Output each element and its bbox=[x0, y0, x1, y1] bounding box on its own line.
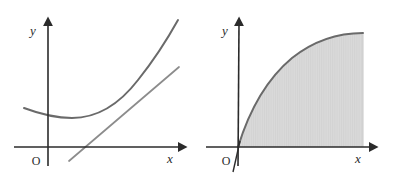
calculus-figure: y x O y x O bbox=[0, 0, 393, 183]
right-origin-label: O bbox=[222, 154, 231, 168]
right-x-axis-label: x bbox=[354, 151, 361, 166]
area-fill bbox=[238, 33, 363, 147]
convex-curve bbox=[24, 20, 178, 118]
left-y-axis-label: y bbox=[28, 23, 36, 38]
figure-container: y x O y x O bbox=[0, 0, 393, 183]
right-panel: y x O bbox=[206, 23, 371, 172]
left-origin-label: O bbox=[32, 154, 41, 168]
right-y-axis-label: y bbox=[220, 23, 228, 38]
left-x-axis-label: x bbox=[166, 151, 173, 166]
right-y-axis-tail bbox=[233, 141, 240, 172]
left-panel: y x O bbox=[14, 20, 180, 168]
